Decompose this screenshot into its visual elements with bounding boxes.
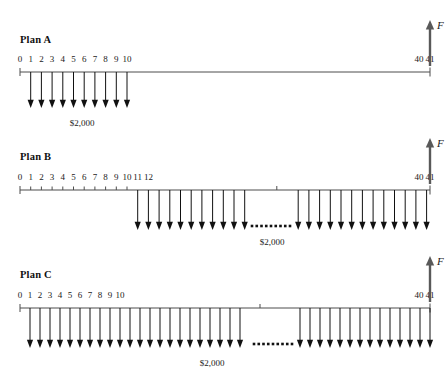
- cash-outflow-arrow-head: [137, 340, 143, 348]
- period-label: 0: [18, 172, 23, 182]
- ellipsis-dot: [267, 343, 270, 346]
- cash-outflow-arrow-head: [347, 340, 353, 348]
- period-label: 9: [114, 54, 119, 64]
- cash-outflow-arrow-head: [27, 340, 33, 348]
- amount-label-plan-b: $2,000: [260, 237, 285, 247]
- period-label: 12: [144, 172, 153, 182]
- cash-outflow-arrow-head: [28, 100, 34, 108]
- cash-outflow-arrow-head: [357, 340, 363, 348]
- future-worth-arrow-head-plan-b: [426, 138, 434, 148]
- cash-outflow-arrow-head: [231, 222, 237, 230]
- future-worth-arrow-head-plan-a: [426, 20, 434, 30]
- cash-outflow-arrow-head: [237, 340, 243, 348]
- cash-flow-svg: Plan A0123456789104041$2,000FPlan B01234…: [0, 0, 445, 386]
- cash-flow-figure: Plan A0123456789104041$2,000FPlan B01234…: [0, 0, 445, 386]
- cash-outflow-arrow-head: [242, 222, 248, 230]
- plan-group-plan-b: Plan B01234567891011124041$2,000F: [18, 137, 444, 247]
- cash-outflow-arrow-head: [407, 340, 413, 348]
- cash-outflow-arrow-head: [60, 100, 66, 108]
- period-label: 2: [39, 172, 44, 182]
- cash-outflow-arrow-head: [67, 340, 73, 348]
- cash-outflow-arrow-head: [424, 222, 430, 230]
- period-label: 2: [38, 290, 43, 300]
- ellipsis-dot: [274, 225, 277, 228]
- ellipsis-dot: [281, 343, 284, 346]
- cash-outflow-arrow-head: [167, 340, 173, 348]
- cash-outflow-arrow-head: [87, 340, 93, 348]
- cash-outflow-arrow-head: [37, 340, 43, 348]
- cash-outflow-arrow-head: [157, 340, 163, 348]
- period-label: 3: [50, 54, 55, 64]
- cash-outflow-arrow-head: [327, 340, 333, 348]
- cash-outflow-arrow-head: [317, 222, 323, 230]
- plan-title-plan-b: Plan B: [20, 151, 51, 162]
- cash-outflow-arrow-head: [167, 222, 173, 230]
- period-label: 8: [103, 172, 108, 182]
- ellipsis-dot: [253, 343, 256, 346]
- cash-outflow-arrow-head: [156, 222, 162, 230]
- cash-outflow-arrow-head: [307, 340, 313, 348]
- cash-outflow-arrow-head: [103, 100, 109, 108]
- period-label: 5: [71, 54, 76, 64]
- cash-outflow-arrow-head: [427, 340, 433, 348]
- ellipsis-dot: [279, 225, 282, 228]
- cash-outflow-arrow-head: [397, 340, 403, 348]
- cash-outflow-arrow-head: [338, 222, 344, 230]
- cash-outflow-arrow-head: [187, 340, 193, 348]
- cash-outflow-arrow-head: [367, 340, 373, 348]
- end-period-label: 40: [415, 172, 425, 182]
- period-label: 4: [61, 54, 66, 64]
- cash-outflow-arrow-head: [377, 340, 383, 348]
- cash-outflow-arrow-head: [127, 340, 133, 348]
- period-label: 0: [18, 54, 23, 64]
- cash-outflow-arrow-head: [359, 222, 365, 230]
- ellipsis-dot: [289, 225, 292, 228]
- ellipsis-dot: [270, 225, 273, 228]
- period-label: 7: [93, 54, 98, 64]
- cash-outflow-arrow-head: [295, 222, 301, 230]
- period-label: 9: [114, 172, 119, 182]
- period-label: 7: [88, 290, 93, 300]
- cash-outflow-arrow-head: [199, 222, 205, 230]
- cash-outflow-arrow-head: [387, 340, 393, 348]
- cash-outflow-arrow-head: [38, 100, 44, 108]
- cash-outflow-arrow-head: [297, 340, 303, 348]
- cash-outflow-arrow-head: [317, 340, 323, 348]
- ellipsis-dot: [260, 225, 263, 228]
- ellipsis-dot: [251, 225, 254, 228]
- cash-outflow-arrow-head: [92, 100, 98, 108]
- cash-outflow-arrow-head: [370, 222, 376, 230]
- period-label: 3: [50, 172, 55, 182]
- future-worth-label-plan-b: F: [436, 137, 444, 149]
- cash-outflow-arrow-head: [210, 222, 216, 230]
- future-worth-label-plan-c: F: [436, 255, 444, 267]
- ellipsis-dot: [272, 343, 275, 346]
- ellipsis-dots: [251, 225, 292, 228]
- cash-outflow-arrow-head: [107, 340, 113, 348]
- period-label: 7: [93, 172, 98, 182]
- cash-outflow-arrow-head: [306, 222, 312, 230]
- cash-outflow-arrow-head: [81, 100, 87, 108]
- period-label: 8: [98, 290, 103, 300]
- cash-outflow-arrow-head: [70, 100, 76, 108]
- cash-outflow-arrow-head: [188, 222, 194, 230]
- cash-outflow-arrow-head: [227, 340, 233, 348]
- cash-outflow-arrow-head: [417, 340, 423, 348]
- cash-outflow-arrow-head: [413, 222, 419, 230]
- period-label: 6: [78, 290, 83, 300]
- cash-outflow-arrow-head: [177, 222, 183, 230]
- period-label: 6: [82, 54, 87, 64]
- future-worth-arrow-head-plan-c: [426, 256, 434, 266]
- cash-outflow-arrow-head: [391, 222, 397, 230]
- cash-outflow-arrow-head: [117, 340, 123, 348]
- period-label: 6: [82, 172, 87, 182]
- period-label: 2: [39, 54, 44, 64]
- period-label: 10: [123, 54, 133, 64]
- period-label: 9: [108, 290, 113, 300]
- period-label: 0: [18, 290, 23, 300]
- cash-outflow-arrow-head: [327, 222, 333, 230]
- ellipsis-dot: [291, 343, 294, 346]
- period-label: 1: [28, 290, 33, 300]
- end-period-label: 40: [415, 290, 425, 300]
- period-label: 10: [116, 290, 126, 300]
